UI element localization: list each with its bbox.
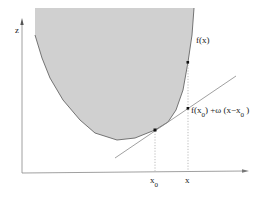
x-axis bbox=[22, 171, 245, 173]
tangent-label-prefix: f(x bbox=[191, 105, 202, 115]
x-axis-arrow-icon bbox=[242, 169, 249, 172]
x0-tick-label: x0 bbox=[150, 175, 159, 189]
tangent-label: f(x0) +ω (x−x0 ) bbox=[191, 105, 249, 119]
x0-tick-sub: 0 bbox=[155, 181, 159, 189]
convex-function-diagram: z f(x) f(x0) +ω (x−x0 ) x0 x bbox=[0, 0, 261, 197]
x-tick-label: x bbox=[185, 175, 190, 185]
tangent-point-x bbox=[187, 107, 190, 110]
tangent-label-middle: ) +ω (x−x bbox=[205, 105, 241, 115]
tangent-label-suffix: ) bbox=[244, 105, 249, 115]
z-axis-arrow-icon bbox=[20, 18, 23, 25]
z-axis-label: z bbox=[15, 25, 19, 35]
curve-point-x bbox=[187, 61, 190, 64]
curve-label: f(x) bbox=[196, 35, 210, 45]
tangent-point bbox=[154, 129, 157, 132]
